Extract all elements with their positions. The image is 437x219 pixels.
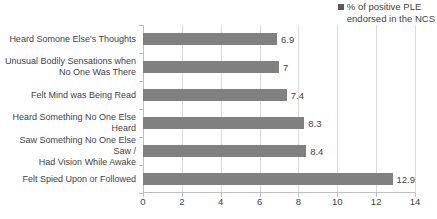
value-tick-mark	[376, 193, 377, 197]
bar-row: 8.3	[143, 109, 415, 137]
value-tick-mark	[337, 193, 338, 197]
bar-row: 6.9	[143, 25, 415, 53]
value-tick-mark	[143, 193, 144, 197]
value-tick-mark	[260, 193, 261, 197]
bar-row: 8.4	[143, 137, 415, 165]
category-label: Unusual Bodily Sensations when No One Wa…	[0, 53, 136, 81]
bar-value-label: 8.3	[308, 118, 321, 129]
bar	[143, 33, 277, 45]
value-tick-label: 10	[332, 196, 343, 207]
value-tick-label: 0	[140, 196, 145, 207]
value-tick-mark	[298, 193, 299, 197]
legend-label: % of positive PLE endorsed in the NCS	[347, 1, 435, 25]
bar-value-label: 7	[283, 62, 288, 73]
bar-value-label: 12.9	[397, 174, 416, 185]
category-tick-mark	[139, 53, 143, 54]
bar	[143, 89, 287, 101]
value-tick-label: 8	[296, 196, 301, 207]
bar-value-label: 6.9	[281, 34, 294, 45]
category-label: Felt Spied Upon or Followed	[0, 165, 136, 193]
bar-chart: % of positive PLE endorsed in the NCS He…	[0, 0, 437, 219]
category-label: Saw Something No One Else Saw / Had Visi…	[0, 137, 136, 165]
plot-area: 6.977.48.38.412.9	[143, 25, 415, 193]
value-axis-labels: 02468101214	[143, 196, 415, 212]
value-tick-mark	[221, 193, 222, 197]
bar-row: 7	[143, 53, 415, 81]
bar-row: 7.4	[143, 81, 415, 109]
bar-series: 6.977.48.38.412.9	[143, 25, 415, 193]
category-tick-mark	[139, 165, 143, 166]
bar	[143, 145, 306, 157]
category-tick-mark	[139, 109, 143, 110]
category-label: Heard Something No One Else Heard	[0, 109, 136, 137]
category-label: Felt Mind was Being Read	[0, 81, 136, 109]
category-tick-mark	[139, 81, 143, 82]
gridline	[415, 25, 416, 193]
legend-swatch-icon	[338, 4, 344, 10]
category-tick-mark	[139, 137, 143, 138]
category-label: Heard Somone Else's Thoughts	[0, 25, 136, 53]
value-tick-label: 2	[179, 196, 184, 207]
bar-value-label: 8.4	[310, 146, 323, 157]
value-tick-label: 14	[410, 196, 421, 207]
bar-value-label: 7.4	[291, 90, 304, 101]
category-tick-mark	[139, 25, 143, 26]
bar-row: 12.9	[143, 165, 415, 193]
chart-legend: % of positive PLE endorsed in the NCS	[305, 1, 435, 25]
value-tick-label: 12	[371, 196, 382, 207]
bar	[143, 117, 304, 129]
bar	[143, 61, 279, 73]
value-tick-label: 6	[257, 196, 262, 207]
bar	[143, 173, 393, 185]
value-tick-label: 4	[218, 196, 223, 207]
value-tick-mark	[415, 193, 416, 197]
value-tick-mark	[182, 193, 183, 197]
category-axis-labels: Heard Somone Else's ThoughtsUnusual Bodi…	[0, 25, 136, 193]
